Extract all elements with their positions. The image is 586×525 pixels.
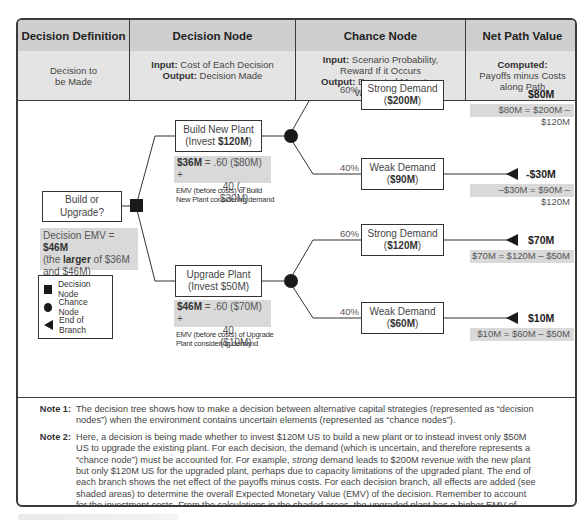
- decision-tree: Build or Upgrade? Decision EMV = $46M (t…: [18, 100, 575, 397]
- desc-text: be Made: [55, 76, 92, 87]
- end-branch-triangle-icon: [506, 234, 518, 246]
- legend-item-chance-node: Chance Node: [44, 298, 107, 316]
- emv-note: New Plant considering demand: [176, 195, 274, 204]
- outcome-value-wrap: ($90M): [387, 174, 419, 187]
- chance-node-circle-icon: [284, 129, 298, 143]
- notes-section: Note 1: The decision tree shows how to m…: [18, 397, 575, 507]
- desc-decision-node: Input: Cost of Each Decision Output: Dec…: [129, 51, 295, 100]
- decision-emv-line1: Decision EMV = $46M: [43, 230, 135, 254]
- computed-label: Computed:: [497, 59, 547, 70]
- desc-input: Input: Scenario Probability,: [323, 54, 438, 65]
- end-branch-triangle-icon: [506, 312, 518, 324]
- header-net-path-value: Net Path Value: [465, 20, 577, 51]
- input-text: Reward If it Occurs: [340, 65, 421, 76]
- note-text: The decision tree shows how to make a de…: [76, 404, 536, 427]
- net-path-value: $80M: [528, 88, 554, 100]
- root-decision-label: Build or Upgrade?: [43, 194, 121, 219]
- header-decision-definition: Decision Definition: [18, 20, 129, 51]
- root-decision-box: Build or Upgrade?: [42, 191, 122, 222]
- outcome-value-wrap: ($120M): [384, 240, 421, 253]
- outcome-value-wrap: ($200M): [384, 95, 421, 108]
- end-branch-triangle-icon: [506, 168, 518, 180]
- outcome-value: $120M: [387, 240, 418, 251]
- table-description-row: Decision to be Made Input: Cost of Each …: [18, 51, 575, 101]
- input-text: Cost of Each Decision: [178, 59, 274, 70]
- desc-input: Input: Cost of Each Decision: [151, 59, 274, 70]
- branch-emv-shade-build: $36M = .60 ($80M) + .40 (–$30M): [174, 156, 271, 183]
- probability-label: 40%: [340, 162, 359, 173]
- invest-text: (Invest: [185, 136, 218, 147]
- invest-amount: $120M: [218, 136, 249, 147]
- legend-label: Chance Node: [58, 297, 107, 317]
- header-decision-node: Decision Node: [129, 20, 295, 51]
- outcome-label: Strong Demand: [367, 228, 437, 241]
- chance-node-circle-icon: [284, 274, 298, 288]
- probability-label: 40%: [340, 306, 359, 317]
- emv-note: EMV (before costs) of Build: [176, 186, 274, 195]
- probability-label: 60%: [340, 228, 359, 239]
- input-label: Input:: [323, 54, 349, 65]
- emv-text-bold: larger: [63, 254, 91, 265]
- square-icon: [44, 285, 52, 294]
- outcome-label: Weak Demand: [370, 306, 436, 319]
- emv-note: EMV (before costs) of Upgrade: [176, 330, 274, 339]
- outcome-value: $90M: [390, 174, 415, 185]
- note-label: Note 1:: [18, 404, 76, 427]
- header-chance-node: Chance Node: [295, 20, 465, 51]
- outcome-box-strong-demand: Strong Demand ($200M): [361, 80, 444, 110]
- branch-box-upgrade-plant: Upgrade Plant (Invest $50M): [175, 265, 262, 297]
- output-label: Output:: [163, 70, 197, 81]
- invest-text: ): [249, 136, 252, 147]
- outcome-box-strong-demand: Strong Demand ($120M): [361, 224, 444, 256]
- circle-icon: [44, 303, 52, 312]
- emv-text: of $36M: [91, 254, 130, 265]
- outcome-value: $60M: [390, 318, 415, 329]
- note-text: Here, a decision is being made whether t…: [76, 432, 536, 507]
- outcome-box-weak-demand: Weak Demand ($60M): [361, 302, 444, 334]
- probability-label: 60%: [340, 84, 359, 95]
- outcome-value: $200M: [387, 95, 418, 106]
- note-2: Note 2: Here, a decision is being made w…: [18, 432, 575, 507]
- decision-tree-figure: Decision Definition Decision Node Chance…: [16, 18, 577, 507]
- emv-note: Plant considering demand: [176, 339, 274, 348]
- desc-output: Output: Decision Made: [163, 70, 263, 81]
- decision-emv-line2: (the larger of $36M: [43, 254, 135, 266]
- legend-label: End of Branch: [59, 315, 107, 335]
- desc-net-path-value: Computed: Payoffs minus Costs along Path: [465, 51, 577, 100]
- outcome-value-wrap: ($60M): [387, 318, 419, 331]
- outcome-box-weak-demand: Weak Demand ($90M): [361, 158, 444, 190]
- legend: Decision Node Chance Node End of Branch: [38, 275, 113, 339]
- branch-invest: (Invest $120M): [185, 136, 252, 149]
- net-path-value: $10M: [528, 312, 554, 324]
- branch-emv-note-upgrade: EMV (before costs) of Upgrade Plant cons…: [176, 330, 274, 348]
- input-text: Scenario Probability,: [349, 54, 438, 65]
- computed-text: Payoffs minus Costs: [479, 70, 565, 81]
- note-1: Note 1: The decision tree shows how to m…: [18, 404, 575, 427]
- decision-node-square-icon: [130, 199, 143, 212]
- emv-value: $46M: [177, 301, 202, 312]
- branch-invest: (Invest $50M): [188, 281, 249, 294]
- net-path-calc: $10M = $60M – $50M: [470, 328, 574, 341]
- table-header-row: Decision Definition Decision Node Chance…: [18, 20, 575, 52]
- net-path-value: -$30M: [526, 168, 556, 180]
- emv-eq-line1: $36M = .60 ($80M) +: [177, 157, 268, 181]
- branch-label: Upgrade Plant: [187, 269, 251, 282]
- decision-emv-shade: Decision EMV = $46M (the larger of $36M …: [40, 228, 138, 270]
- branch-emv-shade-upgrade: $46M = .60 ($70M) + .40 ($10M): [174, 300, 271, 327]
- branch-box-build-new-plant: Build New Plant (Invest $120M): [175, 120, 262, 152]
- note-label: Note 2:: [18, 432, 76, 507]
- figure-caption-faded: [18, 514, 178, 520]
- net-path-value: $70M: [528, 234, 554, 246]
- emv-value: $46M: [43, 242, 68, 253]
- emv-value: $36M: [177, 157, 202, 168]
- emv-text: (the: [43, 254, 63, 265]
- emv-prefix: Decision EMV =: [43, 230, 114, 241]
- branch-label: Build New Plant: [183, 124, 254, 137]
- desc-text: Decision to: [50, 65, 97, 76]
- triangle-left-icon: [44, 320, 53, 330]
- branch-emv-note-build: EMV (before costs) of Build New Plant co…: [176, 186, 274, 204]
- net-path-calc: –$30M = $90M – $120M: [470, 184, 574, 197]
- desc-decision-definition: Decision to be Made: [18, 51, 129, 100]
- emv-eq-line1: $46M = .60 ($70M) +: [177, 301, 268, 325]
- legend-item-end-of-branch: End of Branch: [44, 316, 107, 334]
